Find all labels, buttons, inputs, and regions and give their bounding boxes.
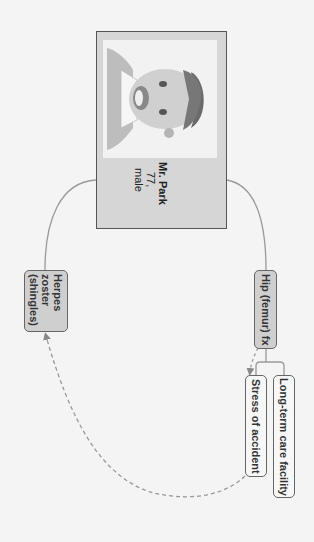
node-label-line1: Herpes xyxy=(52,274,64,326)
node-herpes-zoster: Herpes zoster (shingles) xyxy=(24,270,68,332)
node-hip-fracture: Hip (femur) fx xyxy=(254,270,277,349)
node-label-line2: zoster xyxy=(40,274,52,326)
patient-photo xyxy=(103,40,217,158)
node-label-line3: (shingles) xyxy=(28,274,40,326)
patient-sex: male xyxy=(133,168,145,192)
node-label: Long-term care facility xyxy=(278,378,290,496)
diagram-canvas: Mr. Park 77, male Hip (femur) fx Long-te… xyxy=(0,0,314,542)
node-stress-of-accident: Stress of accident xyxy=(245,375,267,477)
patient-age: 77, xyxy=(145,172,157,187)
patient-name: Mr. Park xyxy=(157,162,169,205)
node-label: Hip (femur) fx xyxy=(260,274,272,346)
patient-info: Mr. Park 77, male xyxy=(111,162,171,224)
portrait-illustration-icon xyxy=(103,40,217,158)
node-label: Stress of accident xyxy=(250,379,262,474)
node-long-term-care: Long-term care facility xyxy=(273,375,295,498)
patient-card: Mr. Park 77, male xyxy=(96,31,227,229)
